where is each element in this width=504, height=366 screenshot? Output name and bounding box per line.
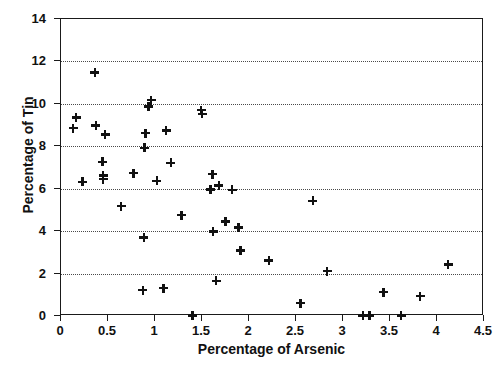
plot-area xyxy=(60,18,483,315)
data-point xyxy=(129,169,138,178)
data-point xyxy=(416,292,425,301)
x-axis-tick-label: 3.5 xyxy=(380,323,398,338)
data-point xyxy=(212,276,221,285)
data-point xyxy=(198,109,207,118)
gridline xyxy=(61,274,482,275)
data-point xyxy=(99,171,108,180)
data-point xyxy=(138,286,147,295)
data-point xyxy=(90,68,99,77)
x-axis-tick-label: 3 xyxy=(338,323,345,338)
x-axis-tick xyxy=(436,315,437,321)
data-point xyxy=(358,311,367,320)
data-point xyxy=(177,211,186,220)
data-point xyxy=(140,143,149,152)
x-axis-tick-label: 4.5 xyxy=(474,323,492,338)
data-point xyxy=(188,311,197,320)
x-axis-tick-label: 2.5 xyxy=(286,323,304,338)
data-point xyxy=(397,311,406,320)
data-point xyxy=(444,260,453,269)
x-axis-tick-label: 0.5 xyxy=(98,323,116,338)
gridline xyxy=(61,146,482,147)
scatter-plot-figure: 02468101214 00.511.522.533.544.5 Percent… xyxy=(0,0,504,366)
data-point xyxy=(139,233,148,242)
y-axis-tick-label: 0 xyxy=(39,308,46,323)
data-point xyxy=(69,124,78,133)
gridline xyxy=(61,104,482,105)
gridline xyxy=(61,61,482,62)
data-point xyxy=(141,129,150,138)
data-point xyxy=(117,202,126,211)
data-point xyxy=(91,121,100,130)
data-point xyxy=(308,196,317,205)
x-axis-tick-label: 1 xyxy=(150,323,157,338)
x-axis-tick xyxy=(201,315,202,321)
data-point xyxy=(72,113,81,122)
data-point xyxy=(152,176,161,185)
x-axis-tick xyxy=(295,315,296,321)
data-point xyxy=(208,170,217,179)
x-axis-tick xyxy=(342,315,343,321)
data-point xyxy=(379,288,388,297)
data-point xyxy=(197,106,206,115)
data-point xyxy=(162,126,171,135)
data-point xyxy=(228,185,237,194)
x-axis-tick xyxy=(107,315,108,321)
x-axis-tick xyxy=(483,315,484,321)
data-point xyxy=(98,157,107,166)
data-point xyxy=(236,246,245,255)
x-axis-tick xyxy=(389,315,390,321)
gridline xyxy=(61,189,482,190)
x-axis-tick-label: 4 xyxy=(432,323,439,338)
y-axis-title: Percentage of Tin xyxy=(20,45,36,265)
data-point xyxy=(166,158,175,167)
x-axis-tick xyxy=(154,315,155,321)
x-axis-tick-label: 1.5 xyxy=(192,323,210,338)
data-point xyxy=(159,284,168,293)
gridline xyxy=(61,231,482,232)
data-point xyxy=(296,299,305,308)
y-axis-tick-label: 14 xyxy=(32,11,46,26)
y-axis-tick-label: 6 xyxy=(39,180,46,195)
x-axis-tick xyxy=(248,315,249,321)
y-axis-tick-label: 4 xyxy=(39,223,46,238)
x-axis-tick-label: 2 xyxy=(244,323,251,338)
x-axis-tick-label: 0 xyxy=(56,323,63,338)
data-point xyxy=(101,130,110,139)
x-axis-tick xyxy=(60,315,61,321)
data-point xyxy=(78,177,87,186)
data-point xyxy=(221,217,230,226)
data-point xyxy=(99,175,108,184)
y-axis-tick-label: 2 xyxy=(39,265,46,280)
data-point xyxy=(264,256,273,265)
x-axis-title: Percentage of Arsenic xyxy=(60,341,483,357)
data-point xyxy=(365,311,374,320)
y-axis-tick-label: 8 xyxy=(39,138,46,153)
